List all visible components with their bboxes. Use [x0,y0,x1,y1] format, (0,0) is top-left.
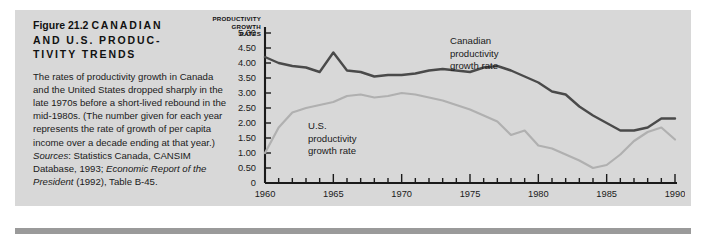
x-tick-labels: 1960196519701975198019851990 [255,189,685,199]
x-tick-label: 1970 [391,189,412,199]
figure-number: Figure 21.2 [33,19,88,31]
y-tick-label: 3.50 [238,73,256,83]
series-annotation-line: productivity [450,48,499,59]
x-tick-label: 1985 [596,189,617,199]
x-tick-label: 1975 [460,189,481,199]
y-tick-label: 2.50 [238,103,256,113]
y-tick-label: 1.50 [238,133,256,143]
figure-title-line-1: CANADIAN [91,19,162,31]
y-tick-label: 4.50 [238,43,256,53]
caption-body-text: The rates of productivity growth in Cana… [33,71,226,148]
figure-container: Figure 21.2 CANADIAN AND U.S. PRODUC- TI… [0,0,706,239]
sources-text-2: (1992), Table B-45. [74,176,158,187]
series-annotation-line: productivity [308,133,357,144]
sources-label: Sources [33,150,68,161]
series-annotation-line: growth rate [308,145,356,156]
figure-title-line-3: TIVITY TRENDS [33,48,136,60]
y-tick-labels: 5.004.504.003.503.002.502.001.501.000.50… [238,28,256,188]
y-tick-label: 0 [251,178,256,188]
line-chart-svg: 5.004.504.003.503.002.502.001.501.000.50… [205,12,685,202]
bottom-rule-divider [15,228,691,234]
x-tick-label: 1965 [323,189,344,199]
y-tick-label: 1.00 [238,148,256,158]
x-tick-label: 1990 [665,189,685,199]
caption-column: Figure 21.2 CANADIAN AND U.S. PRODUC- TI… [33,18,229,188]
us-series-annotation: U.S.productivitygrowth rate [308,120,357,156]
figure-title: Figure 21.2 CANADIAN AND U.S. PRODUC- TI… [33,18,229,62]
chart-area: PRODUCTIVITY GROWTH RATES 5.004.504.003.… [205,12,685,202]
figure-title-line-2: AND U.S. PRODUC- [33,34,161,46]
y-tick-label: 4.00 [238,58,256,68]
y-tick-label: 3.00 [238,88,256,98]
x-tick-label: 1980 [528,189,549,199]
series-annotation-line: U.S. [308,120,327,131]
x-tick-label: 1960 [255,189,276,199]
canadian-series-annotation: Canadianproductivitygrowth rate [450,35,499,71]
x-tick-marks [265,174,675,183]
y-tick-label: 0.50 [238,163,256,173]
y-tick-label: 2.00 [238,118,256,128]
series-annotation-line: growth rate [450,60,498,71]
y-tick-label: 5.00 [238,28,256,38]
figure-caption: The rates of productivity growth in Cana… [33,70,229,189]
series-annotation-line: Canadian [450,35,491,46]
